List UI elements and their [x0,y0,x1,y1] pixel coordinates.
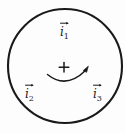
vector-stack-i2: i2 [25,88,34,100]
figure-container: i1 i2 i3 [0,0,125,133]
vector-label-i2-subscript: 2 [29,94,34,103]
vector-stack-i1: i1 [60,26,69,38]
circulation-direction-arrow [48,71,86,82]
vector-label-i3: i3 [93,88,102,100]
center-plus-icon [59,62,69,72]
vector-label-i1-subscript: 1 [64,32,69,41]
vector-label-i2: i2 [25,88,34,100]
vector-label-i1: i1 [60,26,69,38]
vector-label-i3-subscript: 3 [97,94,102,103]
vector-stack-i3: i3 [93,88,102,100]
